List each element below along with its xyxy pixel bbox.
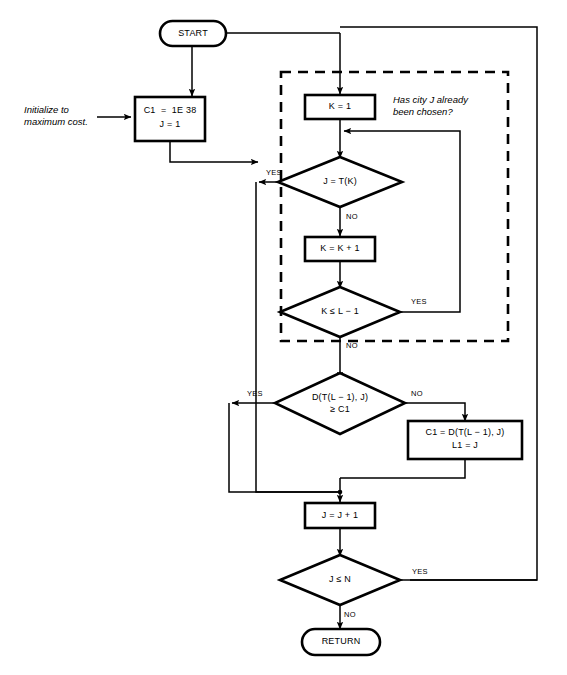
annotation-chosen-note: Has city J already been chosen?: [393, 94, 508, 118]
edge-label-dist-no: NO: [411, 389, 423, 398]
node-jincr-shape: [305, 503, 375, 528]
edge-kle-yes-rail: [344, 131, 460, 312]
node-kle-shape: [280, 287, 400, 337]
edge-label-jlen-no: NO: [344, 610, 356, 619]
node-jeqtk-shape: [278, 157, 402, 207]
node-kincr-shape: [305, 237, 375, 261]
edge-label-kle-no: NO: [346, 341, 358, 350]
edge-label-jeqtk-no: NO: [346, 212, 358, 221]
node-jlen-shape: [280, 555, 400, 605]
node-start-shape: [160, 21, 226, 46]
node-update-shape: [408, 421, 522, 459]
edge-inner-rail: [256, 182, 340, 492]
node-init-shape: [135, 97, 205, 141]
flowchart-canvas: START C1 = 1E 38 J = 1 K = 1 J = T(K) K …: [0, 0, 567, 675]
annotation-init-note: Initialize to maximum cost.: [24, 104, 102, 128]
edge-label-dist-yes: YES: [247, 389, 263, 398]
edge-label-jlen-yes: YES: [412, 567, 428, 576]
edge-label-jeqtk-yes: YES: [266, 168, 282, 177]
edge-init-to-trunk: [170, 141, 258, 162]
node-dist-shape: [275, 373, 405, 434]
edge-update-join: [340, 459, 465, 478]
node-kinit-shape: [305, 95, 375, 119]
node-return-shape: [302, 629, 380, 655]
edge-label-kle-yes: YES: [411, 297, 427, 306]
